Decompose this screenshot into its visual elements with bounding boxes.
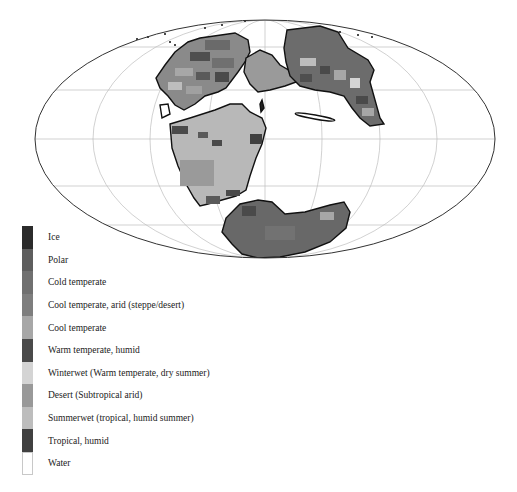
legend-swatch [22, 384, 33, 407]
legend-label: Cool temperate [48, 323, 106, 333]
legend-label: Summerwet (tropical, humid summer) [48, 413, 194, 423]
legend-swatch [22, 226, 33, 249]
legend-swatch [22, 339, 33, 362]
legend-label: Cool temperate, arid (steppe/desert) [48, 300, 184, 310]
legend-swatch [22, 294, 33, 317]
legend-item-desert: Desert (Subtropical arid) [22, 384, 322, 407]
landmasses [156, 26, 384, 258]
legend-label: Polar [48, 255, 68, 265]
legend-label: Warm temperate, humid [48, 345, 140, 355]
north-west-continent [156, 33, 250, 110]
legend-label: Desert (Subtropical arid) [48, 390, 142, 400]
legend-swatch [22, 429, 33, 452]
legend-label: Water [48, 458, 70, 468]
legend-item-winterwet: Winterwet (Warm temperate, dry summer) [22, 362, 322, 385]
legend-label: Ice [48, 232, 60, 242]
legend-swatch [22, 271, 33, 294]
legend-swatch [22, 316, 33, 339]
legend-item-cool-temperate: Cool temperate [22, 316, 322, 339]
legend-item-polar: Polar [22, 249, 322, 272]
legend-label: Winterwet (Warm temperate, dry summer) [48, 368, 210, 378]
legend-item-water: Water [22, 452, 322, 475]
west-coast-island [160, 104, 170, 118]
legend-item-summerwet: Summerwet (tropical, humid summer) [22, 407, 322, 430]
elongated-island [295, 112, 335, 123]
legend-item-warm-temperate-humid: Warm temperate, humid [22, 339, 322, 362]
legend-label: Cold temperate [48, 277, 106, 287]
central-islet [260, 100, 264, 112]
legend-item-cold-temperate: Cold temperate [22, 271, 322, 294]
legend-swatch [22, 249, 33, 272]
legend-item-tropical-humid: Tropical, humid [22, 429, 322, 452]
legend-label: Tropical, humid [48, 436, 109, 446]
legend-item-ice: Ice [22, 226, 322, 249]
legend-swatch [22, 407, 33, 430]
legend-swatch [22, 362, 33, 385]
south-central-continent [170, 104, 266, 206]
climate-legend: Ice Polar Cold temperate Cool temperate,… [22, 226, 322, 475]
legend-item-cool-temperate-arid: Cool temperate, arid (steppe/desert) [22, 294, 322, 317]
legend-swatch [22, 452, 33, 475]
